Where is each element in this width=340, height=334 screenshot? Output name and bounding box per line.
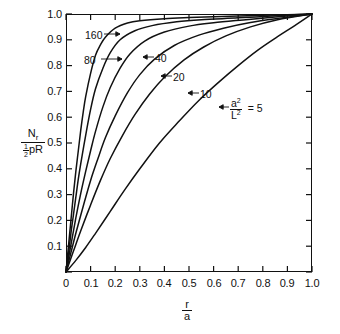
y-tick-label: 1.0 bbox=[28, 8, 62, 20]
y-tick-label: 0.3 bbox=[28, 188, 62, 200]
curve-label-5: a2 L2 = 5 bbox=[230, 98, 263, 120]
data-curves bbox=[66, 14, 312, 272]
y-tick-label: 0.1 bbox=[28, 240, 62, 252]
y-axis-title-fraction: Nr 12pR bbox=[21, 128, 45, 158]
x-axis-denominator: a bbox=[182, 310, 192, 322]
y-tick-label: 0.6 bbox=[28, 111, 62, 123]
curve-label-80: 80 bbox=[84, 54, 96, 66]
leader-80-head bbox=[118, 57, 122, 62]
y-tick-label: 0.8 bbox=[28, 59, 62, 71]
a-squared: a2 bbox=[230, 98, 242, 109]
x-axis-numerator: r bbox=[182, 299, 192, 310]
y-axis-denominator: 12pR bbox=[21, 142, 45, 158]
a2-over-L2-fraction: a2 L2 bbox=[230, 98, 242, 120]
y-tick-label: 0.9 bbox=[28, 33, 62, 45]
leader-20-head bbox=[161, 74, 165, 79]
pR-text: pR bbox=[29, 144, 43, 156]
leader-10-head bbox=[188, 91, 192, 96]
figure-container: 1.0 0.9 0.8 0.7 0.6 0.5 0.4 0.3 0.2 0.1 … bbox=[0, 0, 340, 334]
curve-label-20: 20 bbox=[173, 71, 185, 83]
y-axis-title: Nr 12pR bbox=[13, 128, 53, 158]
curve-label-10: 10 bbox=[200, 88, 212, 100]
leader-40-head bbox=[143, 55, 147, 60]
y-tick-label: 0.7 bbox=[28, 85, 62, 97]
L-squared: L2 bbox=[230, 109, 242, 121]
y-tick-label: 0.2 bbox=[28, 214, 62, 226]
y-tick-label: 0.4 bbox=[28, 162, 62, 174]
curve-label-160: 160 bbox=[85, 29, 103, 41]
x-tick-label: 1.0 bbox=[297, 277, 327, 289]
leader-160-head bbox=[116, 32, 120, 37]
x-axis-title-fraction: r a bbox=[182, 299, 192, 322]
leader-5-head bbox=[219, 105, 223, 110]
y-axis-numerator: Nr bbox=[21, 128, 45, 142]
curve-label-40: 40 bbox=[155, 52, 167, 64]
x-axis-title: r a bbox=[170, 299, 204, 323]
equals-five-text: = 5 bbox=[248, 102, 263, 114]
curve-20 bbox=[66, 14, 312, 272]
